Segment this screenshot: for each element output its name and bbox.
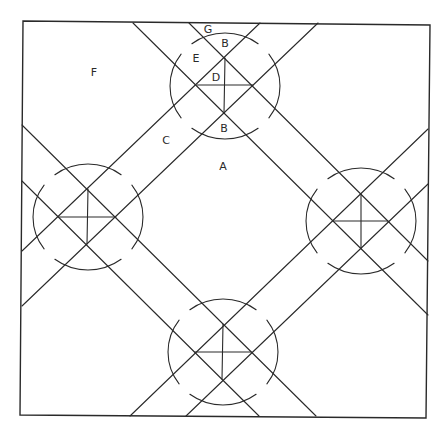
band-line [22,23,318,306]
band-line [186,184,428,416]
node-diamond-bottom [195,324,251,379]
label-b-top: B [221,37,229,50]
label-a: A [219,160,227,173]
band-line [22,23,260,251]
label-g: G [204,23,213,36]
node-diamond-right [333,194,388,248]
circle-arc [306,189,317,253]
quilt-block-diagram: G B E D F B C A [0,0,445,436]
circle-arc [328,168,394,179]
label-c: C [162,134,170,147]
label-f: F [91,66,97,79]
node-diamond-top [197,58,253,113]
label-b-bottom: B [220,122,228,135]
label-d: D [212,71,220,84]
band-line [22,125,316,416]
band-line [130,129,428,416]
node-diamonds [59,58,388,379]
node-diamond-left [59,189,116,244]
label-e: E [193,52,200,65]
